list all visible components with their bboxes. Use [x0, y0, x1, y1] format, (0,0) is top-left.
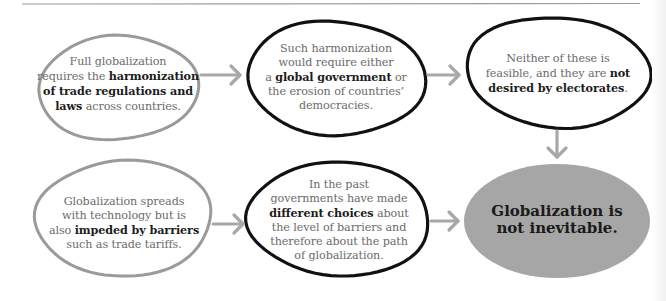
arrow-icon [548, 131, 566, 157]
node-line: a global government or [251, 70, 421, 85]
node-text-not-feasible: Neither of these isfeasible, and they ar… [470, 52, 646, 96]
emphasis-text: laws [55, 99, 82, 113]
top-rule [22, 4, 640, 5]
body-text: Full globalization [70, 55, 167, 68]
body-text: of globalization. [294, 249, 383, 262]
node-line: such as trade tariffs. [39, 238, 209, 252]
node-line: the level of barriers and [251, 221, 427, 235]
node-line: Such harmonization [251, 42, 421, 56]
node-line: In the past [251, 178, 427, 192]
body-text: about [373, 207, 408, 220]
node-text-different-choices: In the pastgovernments have madedifferen… [251, 178, 427, 263]
node-line: the erosion of countries’ [251, 85, 421, 99]
emphasis-text: of trade regulations and [43, 84, 193, 98]
node-line: Full globalization [33, 55, 203, 69]
body-text: In the past [309, 178, 369, 191]
body-text: also [49, 224, 75, 237]
body-text: such as trade tariffs. [66, 238, 181, 251]
node-line: democracies. [251, 99, 421, 113]
node-line: of trade regulations and [33, 84, 203, 99]
node-line: desired by electorates. [470, 81, 646, 96]
node-line: also impeded by barriers [39, 223, 209, 238]
body-text: Globalization spreads [64, 195, 185, 208]
body-text: the level of barriers and [272, 221, 407, 234]
node-line: Globalization is [467, 203, 647, 220]
node-line: requires the harmonization [33, 69, 203, 84]
body-text: across countries. [82, 100, 181, 113]
node-text-technology-barriers: Globalization spreadswith technology but… [39, 195, 209, 252]
emphasis-text: impeded by barriers [75, 223, 199, 237]
node-line: not inevitable. [467, 220, 647, 237]
arrow-icon [201, 66, 240, 84]
node-line: of globalization. [251, 249, 427, 263]
node-text-harmonization-requirement: Such harmonizationwould require eithera … [251, 42, 421, 113]
arrow-icon [428, 66, 459, 84]
body-text: feasible, and they are [486, 67, 610, 80]
body-text: Neither of these is [506, 52, 609, 65]
node-text-full-globalization: Full globalizationrequires the harmoniza… [33, 55, 203, 114]
node-line: feasible, and they are not [470, 66, 646, 81]
body-text: a [265, 71, 275, 84]
body-text: would require either [278, 56, 393, 69]
body-text: therefore about the path [270, 235, 408, 248]
body-text: governments have made [271, 192, 408, 205]
emphasis-text: not [610, 66, 630, 80]
emphasis-text: harmonization [109, 69, 199, 83]
body-text: or [391, 71, 406, 84]
body-text: Such harmonization [280, 42, 392, 55]
arrow-icon [213, 215, 243, 233]
node-line: governments have made [251, 192, 427, 206]
emphasis-text: Globalization is [491, 202, 622, 220]
emphasis-text: not inevitable. [496, 219, 617, 237]
page-edge-shade [652, 0, 666, 301]
node-line: different choices about [251, 206, 427, 221]
node-line: therefore about the path [251, 235, 427, 249]
node-line: Globalization spreads [39, 195, 209, 209]
body-text: . [624, 82, 627, 95]
node-line: would require either [251, 56, 421, 70]
body-text: requires the [37, 70, 109, 83]
emphasis-text: global government [275, 70, 391, 84]
arrow-icon [431, 212, 458, 230]
emphasis-text: different choices [269, 206, 373, 220]
node-line: Neither of these is [470, 52, 646, 66]
body-text: with technology but is [62, 209, 186, 222]
node-line: laws across countries. [33, 99, 203, 114]
node-line: with technology but is [39, 209, 209, 223]
node-text-conclusion: Globalization isnot inevitable. [467, 203, 647, 237]
body-text: democracies. [299, 99, 373, 112]
emphasis-text: desired by electorates [488, 81, 624, 95]
body-text: the erosion of countries’ [268, 85, 404, 98]
